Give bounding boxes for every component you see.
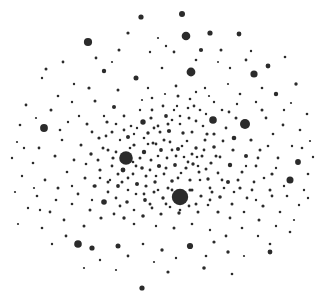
scatter-figure xyxy=(0,0,320,300)
scatter-plot-canvas xyxy=(0,0,320,300)
